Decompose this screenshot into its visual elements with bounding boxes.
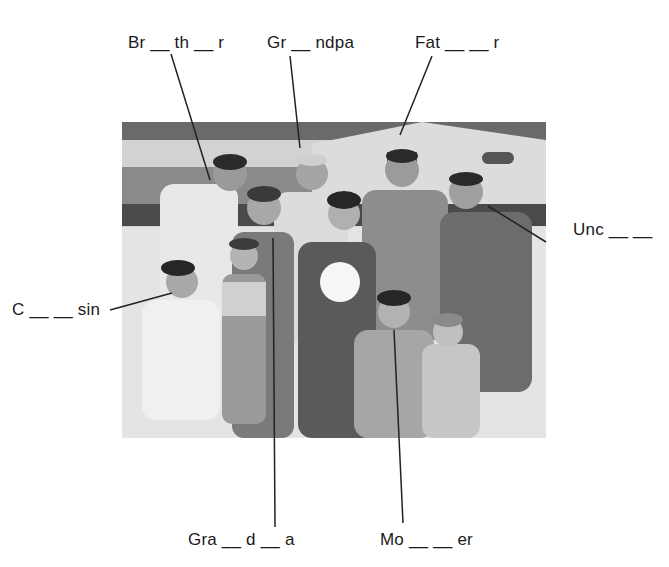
label-brother: Br __ th __ r	[128, 33, 224, 53]
label-grandma: Gra __ d __ a	[188, 530, 295, 550]
label-uncle: Unc __ __	[573, 220, 652, 240]
label-grandpa: Gr __ ndpa	[267, 33, 354, 53]
label-father: Fat __ __ r	[415, 33, 499, 53]
label-cousin: C __ __ sin	[12, 300, 100, 320]
family-photo-illustration	[122, 122, 546, 438]
family-labeling-worksheet: Br __ th __ r Gr __ ndpa Fat __ __ r Unc…	[0, 0, 669, 567]
label-mother: Mo __ __ er	[380, 530, 473, 550]
family-photo	[122, 122, 546, 438]
